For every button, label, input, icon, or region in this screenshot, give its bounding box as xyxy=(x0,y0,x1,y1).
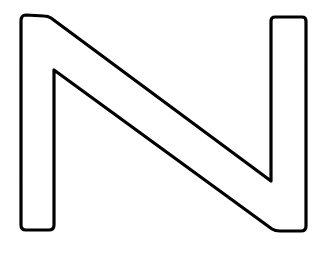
letter-n-shape xyxy=(21,15,306,231)
letter-canvas: N xyxy=(0,0,323,258)
letter-n-outline-icon xyxy=(0,0,323,258)
